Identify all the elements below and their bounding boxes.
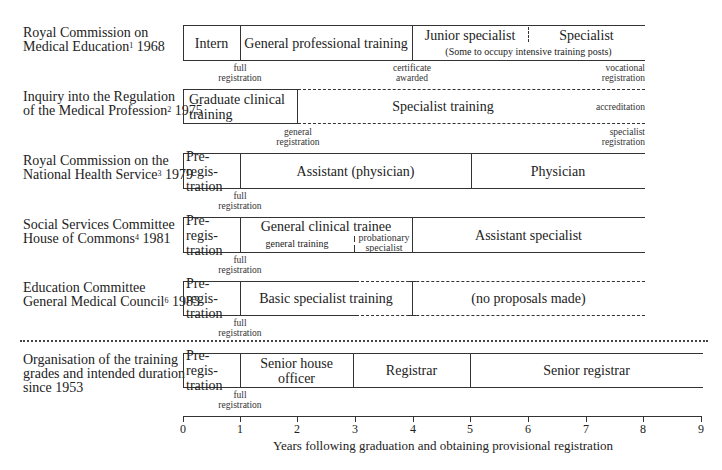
- row-label-line: Royal Commission on: [23, 26, 165, 40]
- annotation-line: registration: [210, 328, 270, 338]
- inline-note-accreditation: accreditation: [570, 102, 645, 112]
- label-text: National Health Service: [23, 167, 158, 182]
- footnote-marker: 3: [158, 169, 162, 178]
- segment-specialist: Specialist: [528, 25, 645, 45]
- annotation-line: registration: [210, 265, 270, 275]
- annotation-general-registration: general registration: [268, 127, 328, 147]
- axis-label: Years following graduation and obtaining…: [183, 438, 703, 454]
- row-label-line: National Health Service3 1979: [23, 168, 193, 182]
- annotation-line: vocational: [585, 63, 645, 73]
- segment-general-professional-training: General professional training: [240, 25, 412, 61]
- annotation-full-registration: full registration: [210, 63, 270, 83]
- segment-no-proposals-made: (no proposals made): [412, 281, 645, 316]
- segment-registrar: Registrar: [353, 353, 470, 388]
- label-text: Medical Education: [23, 39, 129, 54]
- row-label-line: Medical Education1 1968: [23, 40, 165, 54]
- annotation-vocational-registration: vocational registration: [585, 63, 645, 83]
- segment-intern: Intern: [183, 25, 240, 61]
- axis-tick-label: 0: [173, 422, 193, 437]
- row-label: Royal Commission on the National Health …: [23, 154, 193, 182]
- annotation-line: full: [210, 63, 270, 73]
- segment-assistant-specialist: Assistant specialist: [412, 217, 645, 253]
- annotation-line: general: [268, 127, 328, 137]
- annotation-full-registration: full registration: [210, 318, 270, 338]
- annotation-line: registration: [210, 400, 270, 410]
- row-label: Education Committee General Medical Coun…: [23, 281, 200, 309]
- row-label-line: Royal Commission on the: [23, 154, 193, 168]
- axis-tick-label: 5: [460, 422, 480, 437]
- annotation-line: full: [210, 318, 270, 328]
- row-label: Organisation of the training grades and …: [23, 353, 185, 395]
- annotation-full-registration: full registration: [210, 191, 270, 211]
- annotation-line: full: [210, 390, 270, 400]
- segment-senior-registrar: Senior registrar: [470, 353, 703, 388]
- segment-text: Pre-regis-tration: [186, 276, 240, 321]
- axis-tick-label: 1: [230, 422, 250, 437]
- segment-subnote: (Some to occupy intensive training posts…: [412, 44, 645, 58]
- sub-segment-general-training: general training: [240, 235, 354, 251]
- row-label-line: Organisation of the training: [23, 353, 185, 367]
- segment-line: Graduate clinical: [189, 92, 285, 107]
- segment-physician: Physician: [471, 153, 645, 189]
- segment-assistant-physician: Assistant (physician): [240, 153, 471, 189]
- segment-pre-registration: Pre-regis-tration: [183, 153, 240, 189]
- footnote-marker: 1: [129, 41, 133, 50]
- row-label-line: Inquiry into the Regulation: [23, 90, 203, 104]
- axis-tick-label: 2: [287, 422, 307, 437]
- annotation-line: awarded: [382, 73, 442, 83]
- segment-basic-specialist-training: Basic specialist training: [240, 281, 412, 316]
- segment-specialist-training: Specialist training: [298, 89, 588, 124]
- footnote-marker: 4: [135, 233, 139, 242]
- segment-pre-registration: Pre-regis-tration: [183, 281, 240, 316]
- segment-line: Pre-regis-: [186, 213, 240, 243]
- segment-line: Pre-regis-: [186, 276, 240, 306]
- segment-text: Pre-regis-tration: [186, 149, 240, 194]
- label-text: of the Medical Profession: [23, 103, 167, 118]
- label-year: 1981: [139, 231, 171, 246]
- segment-line: Pre-regis-: [186, 348, 240, 378]
- row-label-line: Education Committee: [23, 281, 200, 295]
- axis-tick-label: 9: [691, 422, 711, 437]
- row-label-line: House of Commons4 1981: [23, 232, 175, 246]
- axis-tick-label: 4: [403, 422, 423, 437]
- annotation-line: full: [210, 255, 270, 265]
- annotation-line: certificate: [382, 63, 442, 73]
- axis-tick-label: 3: [345, 422, 365, 437]
- axis-line: [183, 416, 702, 417]
- row-label-line: of the Medical Profession2 1975: [23, 104, 203, 118]
- segment-line: specialist: [356, 243, 412, 253]
- segment-junior-specialist: Junior specialist: [412, 25, 528, 45]
- sub-segment-probationary-specialist: probationary specialist: [356, 233, 412, 253]
- axis-tick-label: 6: [518, 422, 538, 437]
- row-label-line: General Medical Council6 1983: [23, 295, 200, 309]
- annotation-certificate-awarded: certificate awarded: [382, 63, 442, 83]
- segment-pre-registration: Pre-regis-tration: [183, 217, 240, 253]
- segment-line: training: [189, 107, 285, 122]
- segment-pre-registration: Pre-regis-tration: [183, 353, 240, 388]
- sub-divider: [354, 245, 355, 252]
- label-text: House of Commons: [23, 231, 135, 246]
- annotation-line: registration: [585, 137, 645, 147]
- row-label: Royal Commission on Medical Education1 1…: [23, 26, 165, 54]
- footnote-marker: 2: [167, 105, 171, 114]
- row-label-line: since 1953: [23, 381, 185, 395]
- segment-text: Pre-regis-tration: [186, 348, 240, 393]
- segment-text: Pre-regis-tration: [186, 213, 240, 258]
- segment-senior-house-officer: Senior house officer: [240, 353, 353, 388]
- row-label-line: Social Services Committee: [23, 218, 175, 232]
- dotted-separator: [20, 340, 708, 342]
- annotation-line: registration: [268, 137, 328, 147]
- label-text: General Medical Council: [23, 294, 165, 309]
- annotation-line: specialist: [585, 127, 645, 137]
- label-year: 1968: [133, 39, 165, 54]
- annotation-line: registration: [210, 73, 270, 83]
- row-label: Inquiry into the Regulation of the Medic…: [23, 90, 203, 118]
- annotation-line: full: [210, 191, 270, 201]
- annotation-specialist-registration: specialist registration: [585, 127, 645, 147]
- sub-divider: [354, 236, 355, 242]
- footnote-marker: 6: [165, 296, 169, 305]
- segment-text: Graduate clinicaltraining: [189, 92, 285, 122]
- segment-line: Pre-regis-: [186, 149, 240, 179]
- annotation-full-registration: full registration: [210, 390, 270, 410]
- annotation-line: registration: [210, 201, 270, 211]
